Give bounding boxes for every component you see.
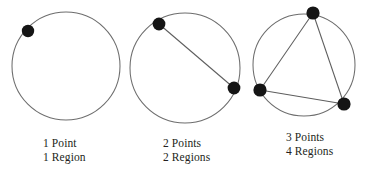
caption-3-regions-label: 4 Regions — [286, 145, 333, 159]
circle-outline-2 — [130, 13, 240, 123]
caption-1-points-label: 1 Point — [43, 137, 86, 151]
panel-two-points — [130, 13, 240, 123]
caption-2-regions-label: 2 Regions — [163, 151, 210, 165]
caption-three-points: 3 Points 4 Regions — [286, 131, 333, 158]
point-dot-2-b — [228, 82, 241, 95]
point-dot-1-a — [22, 25, 34, 37]
caption-one-point: 1 Point 1 Region — [43, 137, 86, 164]
circle-regions-figure: 1 Point 1 Region 2 Points 2 Regions 3 Po… — [0, 0, 369, 172]
chord-2-ab — [159, 24, 234, 88]
caption-3-points-label: 3 Points — [286, 131, 333, 145]
chord-3-ac — [313, 13, 344, 104]
point-dot-2-a — [153, 18, 166, 31]
caption-1-regions-label: 1 Region — [43, 151, 86, 165]
point-dot-3-a — [306, 6, 319, 19]
chord-3-bc — [260, 90, 344, 104]
panel-three-points — [253, 6, 355, 116]
panel-one-point — [12, 12, 120, 120]
chord-3-ab — [260, 13, 313, 90]
point-dot-3-c — [337, 97, 350, 110]
caption-two-points: 2 Points 2 Regions — [163, 137, 210, 164]
point-dot-3-b — [253, 83, 266, 96]
caption-2-points-label: 2 Points — [163, 137, 210, 151]
